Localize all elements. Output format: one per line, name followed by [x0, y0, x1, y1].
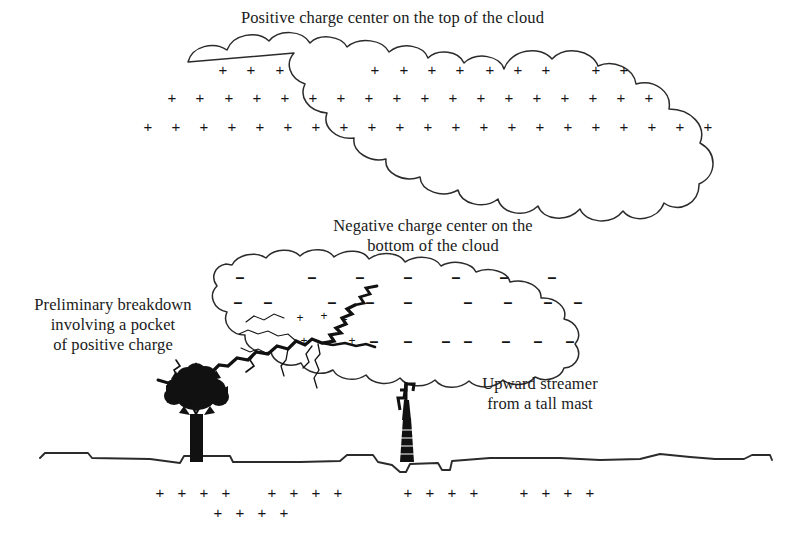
cloud-minus-symbol: – [500, 270, 509, 285]
ground-plus-symbol: + [290, 485, 299, 500]
cloud-plus-symbol: + [365, 90, 374, 105]
cloud-plus-symbol: + [428, 62, 437, 77]
cloud-plus-symbol: + [456, 62, 465, 77]
ground-plus-symbol: + [470, 485, 479, 500]
cloud-minus-symbol: – [452, 270, 461, 285]
cloud-minus-symbol: – [548, 270, 557, 285]
label-preliminary-breakdown: Preliminary breakdown involving a pocket… [8, 295, 218, 355]
cloud-plus-symbol: + [309, 90, 318, 105]
cloud-minus-symbol: – [566, 334, 575, 349]
cloud-minus-symbol: – [236, 270, 245, 285]
cloud-plus-symbol: + [256, 119, 265, 134]
cloud-plus-symbol: + [561, 90, 570, 105]
ground-plus-symbol: + [586, 485, 595, 500]
ground-plus-symbol: + [268, 485, 277, 500]
cloud-minus-symbol: – [534, 334, 543, 349]
cloud-plus-symbol: + [368, 119, 377, 134]
cloud-plus-symbol: + [617, 90, 626, 105]
diagram-canvas [0, 0, 785, 539]
ground-plus-symbol: + [178, 485, 187, 500]
ground-plus-symbol: + [222, 485, 231, 500]
cloud-plus-symbol: + [424, 119, 433, 134]
cloud-plus-symbol: + [589, 90, 598, 105]
cloud-plus-symbol: + [284, 119, 293, 134]
pocket-plus-symbol: + [300, 334, 307, 349]
cloud-plus-symbol: + [477, 90, 486, 105]
label-negative-charge-center: Negative charge center on the bottom of … [288, 216, 578, 256]
cloud-minus-symbol: – [264, 295, 273, 310]
cloud-minus-symbol: – [308, 270, 317, 285]
pocket-plus-symbol: + [348, 334, 355, 349]
ground-plus-symbol: + [542, 485, 551, 500]
cloud-minus-symbol: – [504, 295, 513, 310]
page-title-positive-charge-center: Positive charge center on the top of the… [0, 8, 785, 28]
cloud-minus-symbol: – [404, 270, 413, 285]
cloud-plus-symbol: + [533, 90, 542, 105]
cloud-plus-symbol: + [536, 119, 545, 134]
cloud-plus-symbol: + [592, 119, 601, 134]
ground-plus-symbol: + [404, 485, 413, 500]
label-upward-streamer: Upward streamer from a tall mast [430, 374, 650, 414]
ground-plus-symbol: + [564, 485, 573, 500]
cloud-plus-symbol: + [645, 90, 654, 105]
tall-mast [398, 382, 414, 462]
ground-plus-symbol: + [156, 485, 165, 500]
cloud-plus-symbol: + [648, 119, 657, 134]
cloud-plus-symbol: + [371, 62, 380, 77]
cloud-plus-symbol: + [172, 119, 181, 134]
cloud-plus-symbol: + [480, 119, 489, 134]
cloud-plus-symbol: + [228, 119, 237, 134]
pocket-plus-symbol: + [296, 311, 303, 326]
cloud-minus-symbol: – [574, 295, 583, 310]
pocket-plus-symbol: + [326, 336, 333, 351]
cloud-minus-symbol: – [464, 295, 473, 310]
cloud-minus-symbol: – [370, 334, 379, 349]
cloud-minus-symbol: – [356, 270, 365, 285]
cloud-minus-symbol: – [464, 334, 473, 349]
cloud-minus-symbol: – [544, 295, 553, 310]
cloud-plus-symbol: + [225, 90, 234, 105]
upward-streamer-top [400, 384, 414, 391]
cloud-plus-symbol: + [247, 62, 256, 77]
cloud-plus-symbol: + [219, 62, 228, 77]
ground-plus-symbol: + [200, 485, 209, 500]
ground-plus-symbol: + [520, 485, 529, 500]
cloud-plus-symbol: + [620, 119, 629, 134]
cloud-minus-symbol: – [404, 295, 413, 310]
ground-plus-symbol: + [236, 505, 245, 520]
cloud-plus-symbol: + [449, 90, 458, 105]
cloud-plus-symbol: + [393, 90, 402, 105]
cloud-minus-symbol: – [442, 334, 451, 349]
cloud-plus-symbol: + [340, 119, 349, 134]
ground-plus-symbol: + [258, 505, 267, 520]
cloud-plus-symbol: + [564, 119, 573, 134]
ground-plus-symbol: + [280, 505, 289, 520]
cloud-plus-symbol: + [505, 90, 514, 105]
cloud-plus-symbol: + [514, 62, 523, 77]
lightning-charge-diagram: Positive charge center on the top of the… [0, 0, 785, 539]
cloud-plus-symbol: + [276, 62, 285, 77]
upper-cloud-path [188, 33, 713, 221]
cloud-plus-symbol: + [676, 119, 685, 134]
cloud-minus-symbol: – [404, 334, 413, 349]
cloud-plus-symbol: + [704, 119, 713, 134]
cloud-minus-symbol: – [234, 295, 243, 310]
cloud-plus-symbol: + [542, 62, 551, 77]
cloud-plus-symbol: + [508, 119, 517, 134]
cloud-plus-symbol: + [592, 62, 601, 77]
cloud-plus-symbol: + [196, 90, 205, 105]
cloud-minus-symbol: – [328, 295, 337, 310]
cloud-plus-symbol: + [200, 119, 209, 134]
cloud-minus-symbol: – [502, 334, 511, 349]
mast-upper [402, 400, 411, 420]
cloud-plus-symbol: + [337, 90, 346, 105]
pocket-plus-symbol: + [320, 309, 327, 324]
upper-cloud-group [188, 33, 713, 221]
cloud-plus-symbol: + [281, 90, 290, 105]
cloud-minus-symbol: – [366, 295, 375, 310]
ground-plus-symbol: + [426, 485, 435, 500]
cloud-plus-symbol: + [486, 62, 495, 77]
ground-plus-symbol: + [312, 485, 321, 500]
pocket-plus-symbol: + [340, 313, 347, 328]
cloud-plus-symbol: + [452, 119, 461, 134]
